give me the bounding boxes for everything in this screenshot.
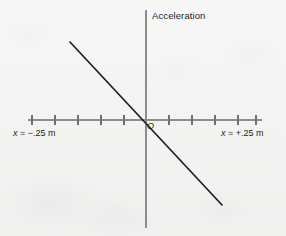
graph-canvas [0, 0, 286, 236]
x-axis-right-endpoint-label: x = +.25 m [221, 128, 264, 138]
origin-label: O [147, 121, 154, 131]
acceleration-vs-position-figure: Acceleration O x = −.25 m x = +.25 m [0, 0, 286, 236]
right-position-value: = +.25 m [226, 128, 264, 138]
left-position-value: = −.25 m [18, 128, 56, 138]
x-axis-left-endpoint-label: x = −.25 m [13, 128, 56, 138]
vertical-axis-title: Acceleration [152, 10, 205, 21]
